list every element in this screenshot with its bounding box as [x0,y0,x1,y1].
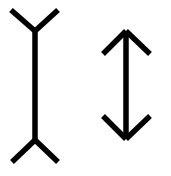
arrowhead-top-right [126,31,150,54]
fin-top-right [35,10,58,31]
fin-bottom-right [35,140,58,162]
arrowhead-bottom-right [126,116,150,139]
figure-fins-out [11,10,58,162]
fin-top-left [11,10,35,31]
figure-fins-in [103,31,150,139]
fin-bottom-left [12,140,35,162]
muller-lyer-diagram [0,0,171,176]
arrowhead-bottom-left [103,116,126,139]
arrowhead-top-left [103,31,126,54]
